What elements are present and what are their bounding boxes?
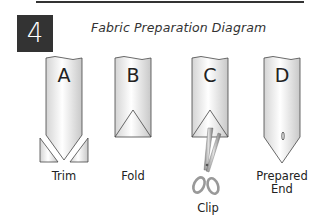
panel-a-caption: Trim [34, 170, 94, 183]
panel-a-letter: A [44, 64, 84, 86]
scissors-icon [191, 128, 221, 195]
panel-b-letter: B [113, 64, 153, 86]
panel-c-caption: Clip [178, 202, 238, 215]
panel-d-letter: D [262, 64, 302, 86]
panel-d-caption-line2: End [252, 183, 312, 196]
panel-b-caption: Fold [103, 170, 163, 183]
panel-d-caption: Prepared End [252, 170, 312, 196]
panel-c-letter: C [190, 64, 230, 86]
